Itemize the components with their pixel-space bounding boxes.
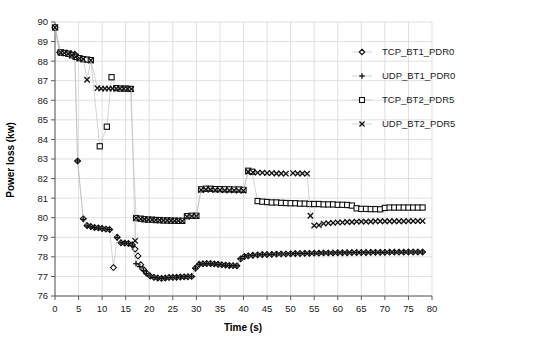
y-tick-label: 84 — [37, 134, 48, 145]
y-tick-label: 90 — [37, 16, 48, 27]
y-tick-label: 85 — [37, 114, 48, 125]
y-tick-label: 80 — [37, 212, 48, 223]
y-tick-label: 76 — [37, 290, 48, 301]
y-tick-label: 78 — [37, 251, 48, 262]
power-loss-chart: 7677787980818283848586878889900510152025… — [0, 0, 536, 338]
x-tick-label: 30 — [191, 303, 202, 314]
x-tick-label: 40 — [238, 303, 249, 314]
y-tick-label: 88 — [37, 56, 48, 67]
y-tick-label: 77 — [37, 271, 48, 282]
data-point-square — [420, 205, 425, 210]
y-tick-label: 82 — [37, 173, 48, 184]
x-tick-label: 80 — [427, 303, 438, 314]
data-point-square — [360, 98, 365, 103]
x-tick-label: 5 — [76, 303, 81, 314]
x-tick-label: 15 — [120, 303, 131, 314]
y-tick-label: 81 — [37, 193, 48, 204]
x-tick-label: 75 — [403, 303, 414, 314]
x-tick-label: 65 — [356, 303, 367, 314]
x-tick-label: 50 — [285, 303, 296, 314]
legend-label: TCP_BT1_PDR0 — [382, 46, 454, 57]
x-tick-label: 10 — [97, 303, 108, 314]
x-tick-label: 45 — [262, 303, 273, 314]
x-tick-label: 55 — [309, 303, 320, 314]
y-tick-label: 89 — [37, 36, 48, 47]
legend-label: UDP_BT1_PDR0 — [382, 70, 455, 81]
x-tick-label: 20 — [144, 303, 155, 314]
x-tick-label: 60 — [332, 303, 343, 314]
y-tick-label: 87 — [37, 75, 48, 86]
data-point-square — [104, 124, 109, 129]
y-tick-label: 83 — [37, 153, 48, 164]
y-tick-label: 79 — [37, 232, 48, 243]
chart-background — [0, 0, 536, 338]
y-tick-label: 86 — [37, 95, 48, 106]
data-point-square — [97, 144, 102, 149]
y-axis-title: Power loss (kw) — [5, 122, 16, 198]
legend-label: UDP_BT2_PDR5 — [382, 118, 455, 129]
x-tick-label: 25 — [168, 303, 179, 314]
x-tick-label: 0 — [52, 303, 57, 314]
legend-label: TCP_BT2_PDR5 — [382, 94, 454, 105]
x-tick-label: 35 — [215, 303, 226, 314]
chart-canvas: 7677787980818283848586878889900510152025… — [0, 0, 536, 338]
x-axis-title: Time (s) — [224, 322, 262, 333]
data-point-square — [109, 75, 114, 80]
x-tick-label: 70 — [380, 303, 391, 314]
